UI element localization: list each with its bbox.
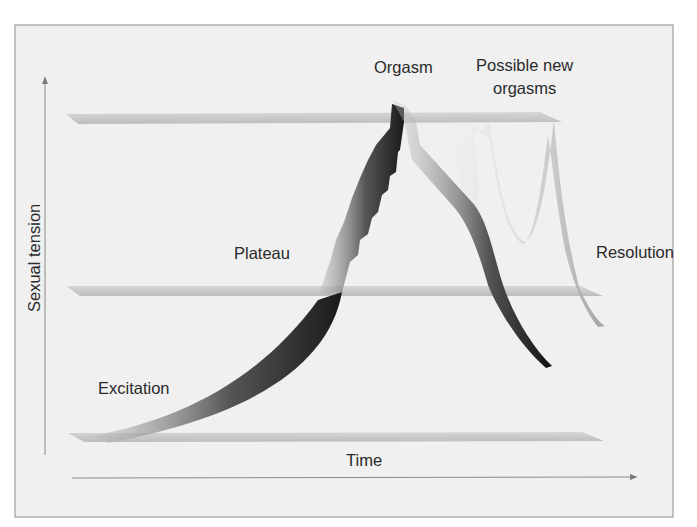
orgasm-label: Orgasm bbox=[374, 58, 433, 76]
excitation-label: Excitation bbox=[98, 379, 170, 397]
orgasm-level-plane bbox=[66, 112, 562, 124]
resolution-label: Resolution bbox=[596, 243, 674, 261]
plateau-label: Plateau bbox=[234, 244, 290, 262]
x-axis-label: Time bbox=[346, 451, 382, 469]
y-axis-label: Sexual tension bbox=[25, 204, 43, 312]
sexual-response-cycle-diagram: Sexual tension Time Excitation Plateau O… bbox=[0, 0, 697, 527]
possible-new-orgasms-label-line2: orgasms bbox=[493, 79, 556, 97]
possible-new-orgasms-label-line1: Possible new bbox=[476, 56, 573, 74]
